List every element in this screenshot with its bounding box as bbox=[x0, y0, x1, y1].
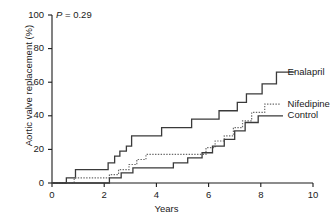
x-tick-label-8: 8 bbox=[251, 189, 271, 200]
x-tick-label-2: 2 bbox=[94, 189, 114, 200]
chart-figure: Aortic valve replacement (%) Years P = 0… bbox=[0, 0, 333, 221]
series-control bbox=[52, 116, 283, 183]
plot-canvas bbox=[0, 0, 333, 221]
y-tick-label-40: 40 bbox=[10, 109, 44, 120]
series-label-enalapril: Enalapril bbox=[288, 66, 325, 77]
y-tick-label-0: 0 bbox=[10, 177, 44, 188]
series-label-control: Control bbox=[288, 109, 319, 120]
x-tick-label-6: 6 bbox=[199, 189, 219, 200]
x-tick-label-0: 0 bbox=[42, 189, 62, 200]
y-tick-label-20: 20 bbox=[10, 143, 44, 154]
y-tick-label-60: 60 bbox=[10, 76, 44, 87]
y-tick-label-100: 100 bbox=[10, 9, 44, 20]
series-nifedipine bbox=[52, 104, 280, 183]
series-label-nifedipine: Nifedipine bbox=[288, 98, 330, 109]
y-tick-label-80: 80 bbox=[10, 42, 44, 53]
x-tick-label-10: 10 bbox=[303, 189, 323, 200]
x-tick-label-4: 4 bbox=[146, 189, 166, 200]
